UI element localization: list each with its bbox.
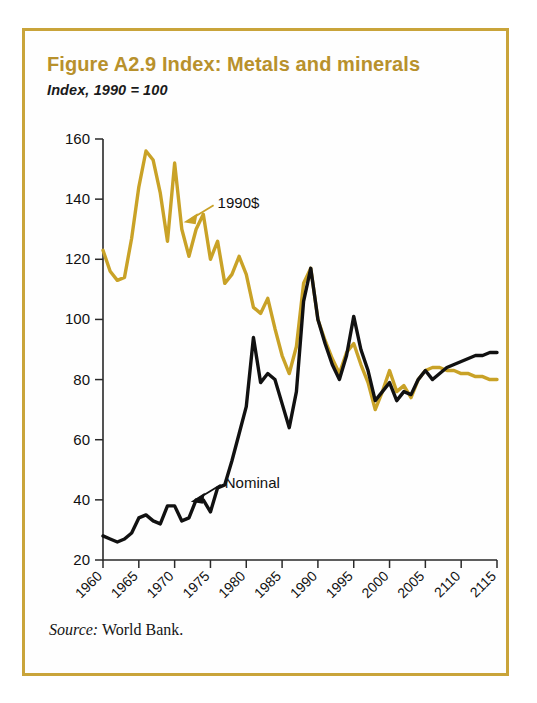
x-tick-label: 1970 [143, 568, 176, 601]
annotation-arrow-head [184, 213, 198, 224]
chart-series [103, 151, 497, 542]
annotation-arrow-head [191, 493, 205, 504]
annotation-label: 1990$ [218, 194, 260, 211]
figure-subtitle: Index, 1990 = 100 [47, 82, 490, 98]
x-tick-label: 1960 [72, 568, 105, 601]
y-axis-ticks: 20406080100120140160 [65, 130, 103, 568]
x-tick-label: 1990 [287, 568, 320, 601]
x-axis-ticks: 1960196519701975198019851990199520002005… [72, 560, 499, 601]
source-text: World Bank. [102, 621, 183, 638]
y-tick-label: 160 [65, 130, 90, 147]
series-1990 [103, 151, 497, 410]
source-note: Source: World Bank. [49, 621, 183, 639]
x-tick-label: 2110 [431, 568, 464, 601]
metals-and-minerals-line-chart: 20406080100120140160 1960196519701975198… [25, 127, 512, 627]
y-tick-label: 140 [65, 190, 90, 207]
x-tick-label: 1985 [251, 568, 284, 601]
x-tick-label: 2000 [358, 568, 391, 601]
x-tick-label: 1965 [108, 568, 141, 601]
x-tick-label: 1975 [179, 568, 212, 601]
x-tick-label: 2005 [394, 568, 427, 601]
source-label: Source: [49, 621, 98, 638]
x-tick-label: 1995 [323, 568, 356, 601]
y-tick-label: 40 [73, 491, 90, 508]
chart-plot-area: 20406080100120140160 1960196519701975198… [25, 127, 512, 627]
y-tick-label: 20 [73, 551, 90, 568]
y-tick-label: 100 [65, 310, 90, 327]
figure-frame: Figure A2.9 Index: Metals and minerals I… [22, 28, 509, 676]
y-tick-label: 120 [65, 250, 90, 267]
x-tick-label: 1980 [215, 568, 248, 601]
annotation-label: Nominal [225, 474, 280, 491]
figure-inner: Figure A2.9 Index: Metals and minerals I… [25, 31, 506, 673]
x-tick-label: 2115 [467, 568, 500, 601]
y-tick-label: 80 [73, 371, 90, 388]
page-title: Figure A2.9 Index: Metals and minerals [47, 53, 490, 75]
y-tick-label: 60 [73, 431, 90, 448]
